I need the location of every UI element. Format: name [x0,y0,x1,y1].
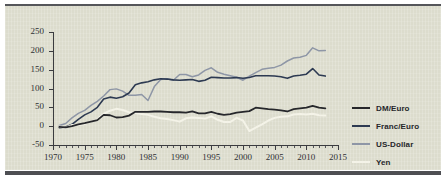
x-axis-tick-major [180,146,181,150]
x-axis-spine [53,145,339,146]
x-axis-tick-minor [281,146,282,148]
x-axis-tick-minor [66,146,67,148]
y-axis-tick-label: 50 [14,102,44,111]
x-axis-tick-minor [199,146,200,148]
legend-item-yen[interactable]: Yen [352,153,438,171]
x-axis-tick-minor [205,146,206,148]
y-axis-tick-label: -50 [14,140,44,149]
chart-screenshot: 250200150100500-50 197019751980198519901… [0,0,446,182]
legend-item-us-dollar[interactable]: US-Dollar [352,135,438,153]
series-line-us-dollar [59,48,325,126]
x-axis-tick-label: 2010 [289,152,323,162]
x-axis-tick-minor [256,146,257,148]
x-axis-tick-major [53,146,54,150]
legend-swatch-icon [352,107,370,109]
legend-item-franc-euro[interactable]: Franc/Euro [352,117,438,135]
x-axis-tick-minor [218,146,219,148]
x-axis-tick-minor [224,146,225,148]
x-axis-tick-label: 2005 [258,152,292,162]
legend-item-label: US-Dollar [376,140,413,149]
x-axis-tick-major [116,146,117,150]
y-axis-tick-label: 0 [14,121,44,130]
x-axis-tick-label: 2015 [321,152,355,162]
x-axis-tick-minor [167,146,168,148]
x-axis-tick-minor [332,146,333,148]
x-axis-tick-minor [192,146,193,148]
x-axis-tick-minor [294,146,295,148]
x-axis-tick-minor [97,146,98,148]
legend-item-dm-euro[interactable]: DM/Euro [352,99,438,117]
x-axis-tick-minor [161,146,162,148]
bottom-bar-divider [5,171,441,175]
x-axis-tick-minor [325,146,326,148]
x-axis-tick-minor [319,146,320,148]
x-axis-tick-major [338,146,339,150]
x-axis-tick-major [211,146,212,150]
y-axis-tick-label: 200 [14,46,44,55]
x-axis-tick-minor [72,146,73,148]
legend-item-label: DM/Euro [376,104,410,113]
x-axis-tick-minor [110,146,111,148]
series-lines [53,32,338,145]
x-axis-tick-minor [59,146,60,148]
x-axis-tick-minor [173,146,174,148]
x-axis-tick-label: 1970 [36,152,70,162]
legend-swatch-icon [352,125,370,127]
legend-item-label: Yen [376,158,391,167]
x-axis-tick-minor [287,146,288,148]
x-axis-tick-label: 1980 [99,152,133,162]
x-axis-tick-minor [135,146,136,148]
x-axis-tick-minor [129,146,130,148]
legend-swatch-icon [352,161,370,163]
x-axis-tick-minor [249,146,250,148]
x-axis-tick-minor [313,146,314,148]
x-axis-tick-minor [91,146,92,148]
y-axis-tick-label: 100 [14,84,44,93]
legend-swatch-icon [352,143,370,145]
x-axis-tick-label: 1985 [131,152,165,162]
x-axis-tick-label: 1990 [163,152,197,162]
x-axis-tick-minor [262,146,263,148]
x-axis-tick-label: 1975 [68,152,102,162]
y-axis-tick-label: 250 [14,27,44,36]
x-axis-tick-minor [78,146,79,148]
x-axis-tick-major [85,146,86,150]
x-axis-tick-label: 1995 [194,152,228,162]
plot-area [53,32,338,145]
x-axis-tick-minor [104,146,105,148]
x-axis-tick-label: 2000 [226,152,260,162]
x-axis-tick-minor [123,146,124,148]
x-axis-tick-minor [300,146,301,148]
x-axis-tick-major [148,146,149,150]
x-axis-tick-minor [186,146,187,148]
legend: DM/EuroFranc/EuroUS-DollarYen [352,99,438,171]
x-axis-tick-major [243,146,244,150]
x-axis-tick-major [275,146,276,150]
x-axis-tick-minor [154,146,155,148]
x-axis-tick-minor [142,146,143,148]
legend-item-label: Franc/Euro [376,122,419,131]
y-axis-tick-label: 150 [14,65,44,74]
x-axis-tick-major [306,146,307,150]
x-axis-tick-minor [230,146,231,148]
x-axis-tick-minor [237,146,238,148]
x-axis-tick-minor [268,146,269,148]
